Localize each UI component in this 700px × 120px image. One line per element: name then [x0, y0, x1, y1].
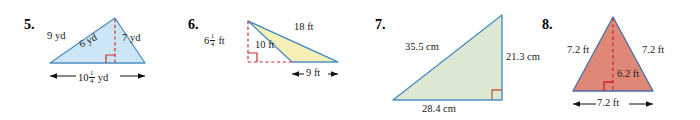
base-arrow-left-5 — [50, 73, 57, 79]
label-6-height-unit: ft — [218, 35, 224, 46]
label-8-height: 6.2 ft — [617, 69, 639, 80]
label-5-base-denominator: 4 — [89, 78, 95, 85]
right-angle-marker-6 — [248, 53, 257, 62]
label-8-right-side: 7.2 ft — [642, 45, 664, 56]
label-5-right-side: 7 yd — [122, 33, 140, 44]
label-8-base: 7.2 ft — [597, 98, 619, 109]
figure-triangle-6 — [170, 0, 345, 120]
base-arrow-right-8 — [646, 101, 653, 107]
worksheet-canvas: 5. 9 yd 7 yd 6 yd 1014 yd 6. — [0, 0, 700, 120]
base-arrow-left-6 — [292, 71, 299, 77]
base-arrow-right-5 — [138, 73, 145, 79]
label-5-base-whole: 10 — [78, 72, 89, 83]
label-6-height-fraction: 14 — [210, 33, 216, 48]
label-7-hypotenuse: 35.5 cm — [405, 42, 439, 53]
problem-5: 5. 9 yd 7 yd 6 yd 1014 yd — [0, 0, 170, 120]
label-5-base-unit: yd — [98, 72, 109, 83]
figure-triangle-7 — [345, 0, 520, 120]
label-6-base: 9 ft — [306, 68, 320, 79]
label-5-base-fraction: 14 — [89, 70, 95, 85]
label-7-base: 28.4 cm — [422, 104, 456, 115]
problem-7: 7. 35.5 cm 21.3 cm 28.4 cm — [345, 0, 520, 120]
label-6-slant-left: 10 ft — [255, 40, 275, 51]
label-8-left-side: 7.2 ft — [567, 45, 589, 56]
triangle-7-shape — [393, 15, 502, 100]
label-6-height: 614 ft — [204, 33, 225, 48]
label-6-slant-top: 18 ft — [294, 22, 314, 33]
base-arrow-left-8 — [573, 101, 580, 107]
label-5-left-side: 9 yd — [47, 31, 65, 42]
label-6-height-whole: 6 — [204, 35, 209, 46]
problem-8: 8. 7.2 ft 7.2 ft 6.2 ft 7.2 ft — [520, 0, 700, 120]
label-5-base: 1014 yd — [78, 70, 108, 85]
base-arrow-right-6 — [331, 71, 338, 77]
figure-triangle-5 — [0, 0, 170, 120]
problem-6: 6. 614 ft 10 ft 18 ft 9 ft — [170, 0, 345, 120]
label-6-height-denominator: 4 — [210, 41, 216, 48]
